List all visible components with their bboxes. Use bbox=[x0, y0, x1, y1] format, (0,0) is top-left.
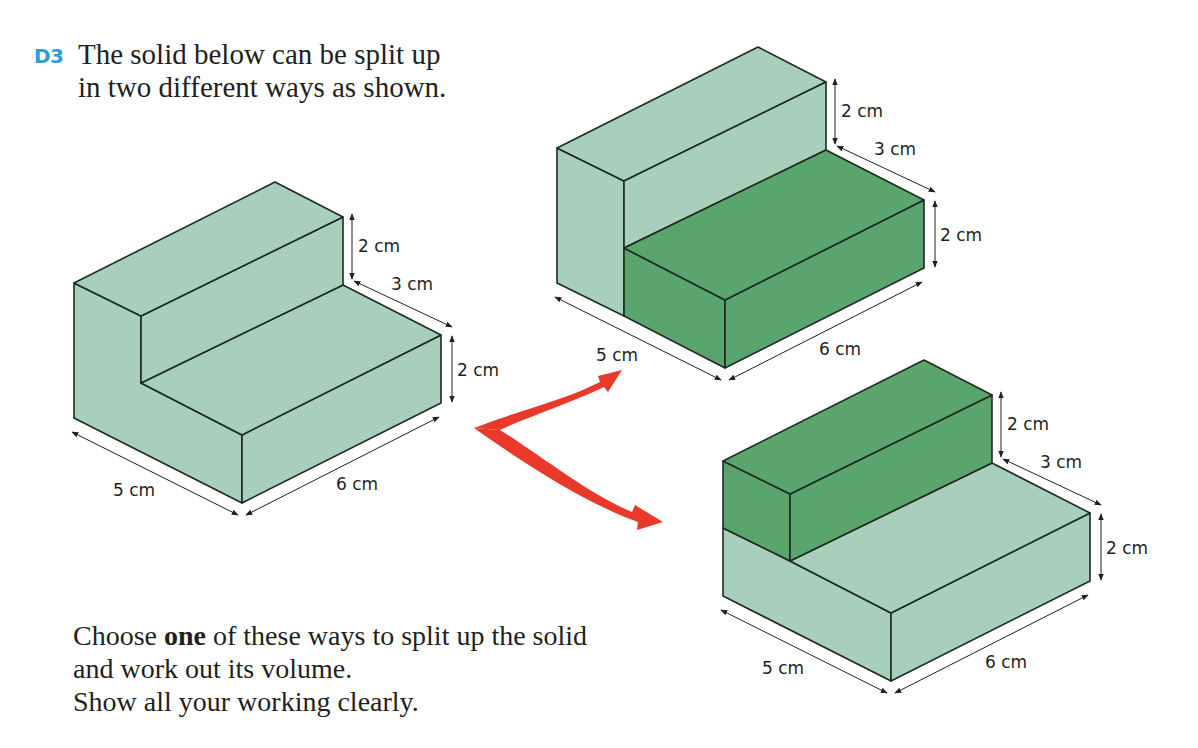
dim-length: 6 cm bbox=[819, 339, 861, 359]
split-solid-front-block: 2 cm 3 cm 2 cm 5 cm 6 cm bbox=[555, 47, 982, 380]
dim-top-height: 2 cm bbox=[841, 101, 883, 121]
instruction-line-3: Show all your working clearly. bbox=[73, 685, 713, 718]
dim-width: 5 cm bbox=[596, 345, 638, 365]
dim-width: 5 cm bbox=[762, 658, 804, 678]
dim-width: 5 cm bbox=[113, 480, 155, 500]
split-solid-top-block: 2 cm 3 cm 2 cm 5 cm 6 cm bbox=[721, 360, 1148, 693]
dim-step-depth: 3 cm bbox=[1040, 452, 1082, 472]
dim-length: 6 cm bbox=[336, 474, 378, 494]
dim-top-height: 2 cm bbox=[1007, 414, 1049, 434]
original-solid: 2 cm 3 cm 2 cm 5 cm 6 cm bbox=[72, 182, 499, 515]
dim-top-height: 2 cm bbox=[358, 236, 400, 256]
dim-length: 6 cm bbox=[985, 652, 1027, 672]
dim-low-height: 2 cm bbox=[457, 360, 499, 380]
emphasis-one: one bbox=[164, 620, 206, 651]
red-arrows-icon bbox=[474, 370, 663, 530]
instruction-line-2: and work out its volume. bbox=[73, 652, 713, 685]
instruction-line-1: Choose one of these ways to split up the… bbox=[73, 619, 713, 652]
dim-low-height: 2 cm bbox=[1106, 538, 1148, 558]
dim-step-depth: 3 cm bbox=[874, 139, 916, 159]
instructions: Choose one of these ways to split up the… bbox=[73, 619, 713, 718]
dim-step-depth: 3 cm bbox=[391, 274, 433, 294]
dim-low-height: 2 cm bbox=[940, 225, 982, 245]
